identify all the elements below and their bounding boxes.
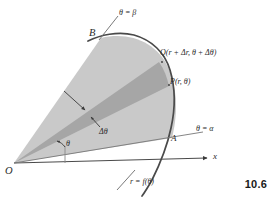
label-x-axis: x xyxy=(213,152,217,161)
label-point-A: A xyxy=(171,134,177,143)
label-theta-beta: θ = β xyxy=(119,9,136,17)
polar-area-diagram xyxy=(0,0,273,198)
label-origin: O xyxy=(5,166,13,177)
figure-container: θ = β B Q(r + Δr, θ + Δθ) P(r, θ) θ = α … xyxy=(0,0,273,198)
label-point-B: B xyxy=(89,28,95,39)
label-point-Q: Q(r + Δr, θ + Δθ) xyxy=(160,49,216,57)
label-curve-equation: r = f(θ) xyxy=(130,178,154,186)
label-theta: θ xyxy=(66,140,70,148)
label-theta-alpha: θ = α xyxy=(196,125,214,133)
label-point-P: P(r, θ) xyxy=(170,78,190,86)
shaded-sector-light xyxy=(14,36,176,163)
x-axis xyxy=(14,158,207,163)
point-Q-tick xyxy=(161,61,163,63)
label-delta-theta: Δθ xyxy=(99,128,108,136)
figure-number: 10.6 xyxy=(245,178,267,190)
